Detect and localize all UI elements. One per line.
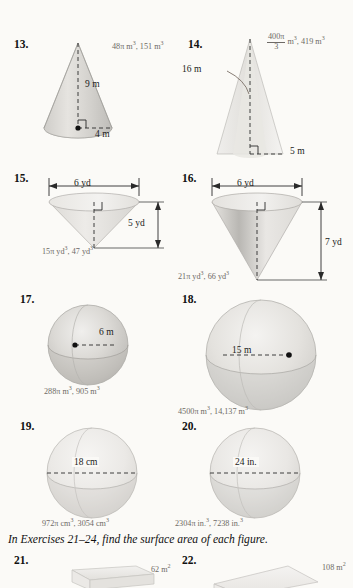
exercise-number-19: 19. <box>20 420 34 432</box>
label-13-radius: 4 m <box>95 129 110 139</box>
figure-sphere-18 <box>203 295 323 415</box>
figure-sphere-19 <box>42 425 146 523</box>
answer-18: 4500π m3, 14,137 m3 <box>178 405 248 416</box>
exercise-number-16: 16. <box>182 172 196 184</box>
answer-16: 21π yd3, 66 yd3 <box>178 270 229 281</box>
answer-22: 108 m2 <box>322 561 346 572</box>
figure-sphere-20 <box>203 425 311 523</box>
label-19-diameter: 18 cm <box>72 457 99 467</box>
label-20-diameter: 24 in. <box>233 457 259 467</box>
exercise-number-17: 17. <box>20 293 34 305</box>
figure-cone-14 <box>205 36 320 161</box>
exercise-number-18: 18. <box>182 293 196 305</box>
label-14-slant: 16 m <box>182 64 201 74</box>
answer-19: 972π cm3, 3054 cm3 <box>42 517 109 528</box>
answer-15: 15π yd3, 47 yd3 <box>42 245 93 256</box>
answer-21: 62 m2 <box>151 563 171 574</box>
label-13-height: 9 m <box>85 79 100 89</box>
exercise-number-22: 22. <box>182 554 196 566</box>
label-18-radius: 15 m <box>232 345 251 355</box>
exercise-instruction: In Exercises 21–24, find the surface are… <box>8 533 268 546</box>
label-16-height: 7 yd <box>325 237 342 247</box>
figure-prism-21 <box>50 560 160 586</box>
exercise-number-14: 14. <box>188 38 202 50</box>
exercise-number-20: 20. <box>182 420 196 432</box>
label-15-height: 5 yd <box>128 218 145 228</box>
figure-sphere-17 <box>44 300 134 390</box>
answer-20: 2304π in.3, 7238 in.3 <box>175 517 243 528</box>
answer-17: 288π m3, 905 m3 <box>44 385 100 396</box>
label-17-radius: 6 m <box>99 327 114 337</box>
exercise-number-13: 13. <box>14 38 28 50</box>
label-14-radius: 5 m <box>290 146 305 156</box>
exercise-number-15: 15. <box>14 172 28 184</box>
exercise-number-21: 21. <box>14 554 28 566</box>
label-16-diameter: 6 yd <box>237 178 254 188</box>
label-15-diameter: 6 yd <box>74 178 91 188</box>
figure-prism-22 <box>210 562 322 588</box>
